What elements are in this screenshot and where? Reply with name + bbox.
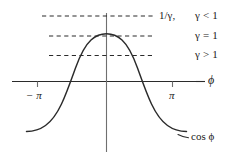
x-axis-label: ϕ <box>208 74 214 86</box>
figure-container: 1/γ, γ < 1 γ = 1 γ > 1 ϕ − π π cos ϕ <box>0 0 239 160</box>
level-condition-gamma-eq-1: γ = 1 <box>195 30 218 41</box>
level-condition-gamma-lt-1: γ < 1 <box>195 10 218 21</box>
level-condition-gamma-gt-1: γ > 1 <box>195 49 218 60</box>
x-tick-label-minus-pi: − π <box>26 90 42 101</box>
curve-label-leader <box>178 135 189 138</box>
curve-label-cos-phi: cos ϕ <box>191 131 214 142</box>
x-tick-label-pi: π <box>169 90 175 101</box>
level-value-label-gamma-lt-1: 1/γ, <box>159 10 175 21</box>
